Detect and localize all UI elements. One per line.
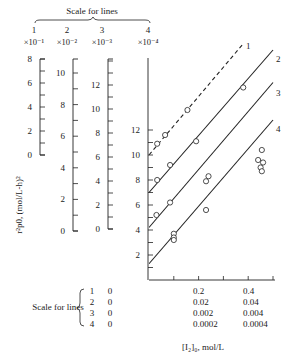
y-tick-label: 6 [136, 200, 141, 210]
y-tick-label: 4 [96, 176, 101, 186]
data-point [203, 179, 208, 184]
x-scale-tick-label: 0.2 [193, 286, 204, 296]
series-line-1: 1 [149, 41, 251, 155]
data-point [259, 169, 264, 174]
y-tick-label: 6 [28, 78, 33, 88]
y-axis-line-4: ×10⁻⁴ [138, 37, 159, 280]
y-tick-label: 10 [56, 68, 66, 78]
y-tick-label: 2 [96, 200, 101, 210]
x-scale-tick-label: 0.04 [243, 297, 259, 307]
data-point [167, 162, 172, 167]
y-tick-label: 10 [91, 104, 101, 114]
x-scale-line-number: 4 [90, 319, 95, 329]
data-point [155, 141, 160, 146]
x-scale-tick-label: 0 [108, 297, 113, 307]
y-tick-label: 12 [91, 80, 100, 90]
series-line-4: 4 [149, 120, 281, 264]
y-tick-label: 10 [131, 150, 141, 160]
y-tick-label: 12 [131, 125, 140, 135]
series-label: 1 [246, 41, 251, 51]
axis-line-number: 1 [32, 25, 37, 35]
axis-multiplier: ×10⁻⁴ [138, 37, 159, 47]
x-scale-tick-label: 0.0004 [243, 319, 268, 329]
axis-multiplier: ×10⁻³ [92, 37, 113, 47]
x-scale-tick-label: 0.002 [193, 308, 213, 318]
data-point [260, 160, 265, 165]
data-point [171, 237, 176, 242]
x-axis-title: [I₂]₀, mol/L [182, 342, 224, 352]
x-scale-tick-label: 0.004 [243, 308, 264, 318]
y-tick-label: 8 [28, 54, 33, 64]
top-brace [35, 17, 150, 23]
axis-line-number: 4 [146, 25, 151, 35]
y-axis-title: r²p0, (mol/L-h)² [14, 176, 24, 234]
data-point [154, 212, 159, 217]
top-scale-title: Scale for lines [66, 6, 118, 16]
x-scale-tick-label: 0 [108, 319, 113, 329]
data-point [259, 147, 264, 152]
x-scale-tick-label: 0.02 [193, 297, 209, 307]
data-point [256, 157, 261, 162]
y-tick-label: 4 [61, 163, 66, 173]
x-scale-line-number: 2 [90, 297, 95, 307]
y-tick-label: 8 [96, 128, 101, 138]
axis-line-number: 3 [100, 25, 105, 35]
bottom-scale-title: Scale for lines [32, 302, 84, 312]
axis-multiplier: ×10⁻² [57, 37, 78, 47]
series-line-3: 3 [149, 83, 281, 228]
chart: Scale for lines×10⁻¹102468×10⁻²20246810×… [0, 0, 283, 355]
y-tick-label: 4 [28, 102, 33, 112]
y-tick-label: 2 [28, 126, 33, 136]
axis-multiplier: ×10⁻¹ [24, 37, 45, 47]
y-tick-label: 0 [61, 226, 66, 236]
y-tick-label: 4 [136, 225, 141, 235]
series-label: 3 [276, 88, 281, 98]
data-point [167, 200, 172, 205]
series-label: 2 [276, 54, 281, 64]
x-scale-tick-label: 0 [108, 286, 113, 296]
axis-line-number: 2 [65, 25, 70, 35]
y-tick-label: 0 [96, 224, 101, 234]
series-label: 4 [276, 124, 281, 134]
y-tick-label: 8 [136, 175, 141, 185]
data-point [194, 139, 199, 144]
data-point [155, 177, 160, 182]
y-tick-label: 6 [61, 131, 66, 141]
x-scale-line-number: 3 [90, 308, 95, 318]
y-tick-label: 0 [28, 150, 33, 160]
x-scale-tick-label: 0.0002 [193, 319, 218, 329]
x-scale-line-number: 1 [90, 286, 95, 296]
x-scale-tick-label: 0.4 [243, 286, 255, 296]
data-point [185, 107, 190, 112]
y-tick-label: 8 [61, 100, 66, 110]
y-tick-label: 6 [96, 152, 101, 162]
y-tick-label: 2 [61, 194, 66, 204]
x-scale-tick-label: 0 [108, 308, 113, 318]
data-point [241, 85, 246, 90]
data-point [203, 207, 208, 212]
data-point [163, 132, 168, 137]
data-point [206, 174, 211, 179]
y-tick-label: 2 [136, 250, 141, 260]
